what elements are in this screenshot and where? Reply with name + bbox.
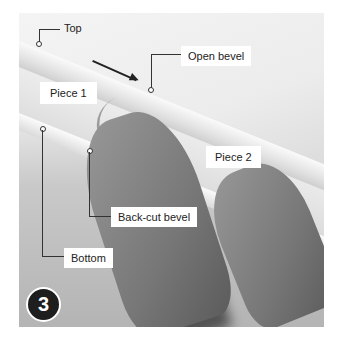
label-top: Top bbox=[60, 21, 86, 35]
back-cut-leader-h bbox=[89, 216, 111, 217]
label-piece-1: Piece 1 bbox=[40, 82, 97, 104]
bottom-leader-h bbox=[42, 256, 64, 257]
back-cut-leader-v bbox=[89, 152, 90, 216]
bottom-marker bbox=[40, 126, 46, 132]
label-bottom: Bottom bbox=[64, 248, 113, 268]
label-open-bevel: Open bevel bbox=[181, 46, 251, 66]
top-leader-h bbox=[39, 29, 60, 30]
step-number-badge: 3 bbox=[26, 287, 61, 322]
back-cut-bevel-marker bbox=[87, 148, 93, 154]
top-marker bbox=[36, 41, 42, 47]
bottom-leader-v bbox=[42, 130, 43, 257]
label-back-cut-bevel: Back-cut bevel bbox=[111, 207, 197, 227]
open-bevel-leader-h bbox=[151, 54, 181, 55]
label-piece-2: Piece 2 bbox=[206, 146, 261, 168]
molding-photo bbox=[19, 13, 324, 327]
open-bevel-leader-v bbox=[151, 54, 152, 88]
open-bevel-marker bbox=[148, 87, 154, 93]
